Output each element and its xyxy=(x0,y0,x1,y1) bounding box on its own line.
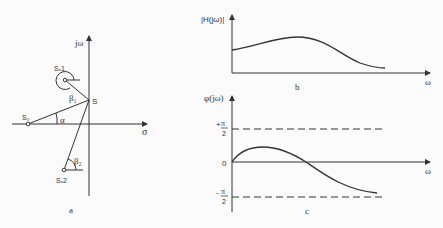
beta1-label: β₁ xyxy=(69,93,77,103)
panel-c-phase-plot xyxy=(232,96,430,212)
panel-a-pole-zero-plot xyxy=(12,36,147,196)
jomega-axis-label: jω xyxy=(74,38,84,48)
magnitude-omega-label: ω xyxy=(425,77,431,87)
tick-minus-pi: π xyxy=(221,187,225,196)
pole-sx2-marker xyxy=(62,168,66,172)
phase-axis-label: φ(jω) xyxy=(204,93,224,103)
alpha-label: α xyxy=(60,115,65,125)
sigma-axis-label: σ xyxy=(142,126,148,137)
point-sx2-label: Sₓ2 xyxy=(56,177,67,184)
magnitude-axis-label: |H(jω)| xyxy=(201,15,224,24)
tick-zero: 0 xyxy=(222,159,227,168)
alpha-arc xyxy=(56,113,57,124)
point-s-label: S xyxy=(92,97,97,106)
point-sx1-label: Sₓ1 xyxy=(54,65,65,72)
pole-sx1-marker xyxy=(63,78,67,82)
point-s0-label: S₀ xyxy=(22,114,30,121)
tick-minus-denominator: 2 xyxy=(222,198,226,205)
magnitude-curve xyxy=(232,37,385,68)
zero-s0-marker xyxy=(26,122,30,126)
panel-b-caption: b xyxy=(295,82,300,92)
tick-plus-denominator: 2 xyxy=(222,130,226,137)
panel-b-magnitude-plot xyxy=(232,15,430,73)
vector-s0-s xyxy=(28,100,89,124)
beta2-label: β₂ xyxy=(74,156,82,166)
panel-a-caption: a xyxy=(69,205,73,215)
phase-omega-label: ω xyxy=(425,166,431,176)
tick-plus-pi: π xyxy=(221,119,225,128)
figure-canvas: jω σ S S₀ Sₓ1 Sₓ2 α β₁ β₂ a |H(jω)| ω b … xyxy=(0,0,443,228)
tick-minus-sign: - xyxy=(216,188,219,197)
panel-c-caption: c xyxy=(305,206,309,216)
phase-curve xyxy=(232,147,377,193)
